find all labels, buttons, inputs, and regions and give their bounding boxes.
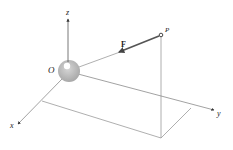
point-p-label: P: [164, 26, 170, 34]
force-label: F: [121, 40, 126, 49]
origin-sphere: [58, 60, 80, 82]
x-axis-label: x: [9, 121, 14, 130]
y-axis: [78, 74, 214, 110]
point-p-marker: [159, 33, 163, 37]
y-axis-label: y: [216, 109, 221, 118]
origin-label: O: [48, 65, 55, 75]
position-line: [79, 52, 120, 67]
force-diagram: z y x O P F: [0, 0, 233, 150]
x-axis: [18, 79, 62, 124]
floor-projection: [42, 101, 191, 138]
z-axis-label: z: [65, 8, 70, 17]
sphere-highlight: [64, 63, 70, 69]
